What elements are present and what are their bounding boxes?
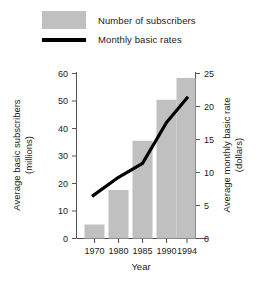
right-axis-title-line1: Average monthly basic rate xyxy=(221,98,232,213)
left-axis-ticks: 0 10 20 30 40 50 60 xyxy=(58,69,77,244)
right-tick-label: 20 xyxy=(204,102,214,112)
right-tick-label: 25 xyxy=(204,69,214,79)
left-tick-label: 50 xyxy=(58,96,68,106)
right-axis-title-line2: (dollars) xyxy=(233,138,244,172)
bar-1994 xyxy=(177,78,196,239)
x-tick-label: 1980 xyxy=(108,246,128,256)
x-tick-label: 1970 xyxy=(84,246,104,256)
bar-series xyxy=(85,78,196,239)
bar-1970 xyxy=(85,225,105,239)
chart-figure: Number of subscribers Monthly basic rate… xyxy=(0,0,260,281)
right-tick-label: 15 xyxy=(204,135,214,145)
left-tick-label: 30 xyxy=(58,151,68,161)
plot-area: 0 10 20 30 40 50 60 0 5 10 15 20 xyxy=(0,0,260,281)
right-tick-label: 5 xyxy=(204,201,209,211)
bottom-axis-ticks: 1970 1980 1985 1990 1994 xyxy=(84,239,197,257)
x-tick-label: 1985 xyxy=(132,246,152,256)
right-axis-title: Average monthly basic rate (dollars) xyxy=(221,98,244,213)
left-tick-label: 10 xyxy=(58,206,68,216)
left-axis-title: Average basic subscribers (millions) xyxy=(11,99,34,210)
x-tick-label: 1990 xyxy=(156,246,176,256)
left-axis-title-line1: Average basic subscribers xyxy=(11,99,22,210)
bar-1980 xyxy=(109,190,129,239)
right-axis-ticks: 0 5 10 15 20 25 xyxy=(196,69,215,244)
bar-1985 xyxy=(133,141,153,239)
right-tick-label: 0 xyxy=(204,234,209,244)
chart-svg: 0 10 20 30 40 50 60 0 5 10 15 20 xyxy=(0,0,260,281)
left-tick-label: 40 xyxy=(58,124,68,134)
left-tick-label: 60 xyxy=(58,69,68,79)
left-tick-label: 20 xyxy=(58,179,68,189)
left-axis-title-line2: (millions) xyxy=(23,136,34,174)
right-tick-label: 10 xyxy=(204,168,214,178)
x-tick-label: 1994 xyxy=(177,246,197,256)
left-tick-label: 0 xyxy=(63,234,68,244)
x-axis-title: Year xyxy=(131,261,150,272)
